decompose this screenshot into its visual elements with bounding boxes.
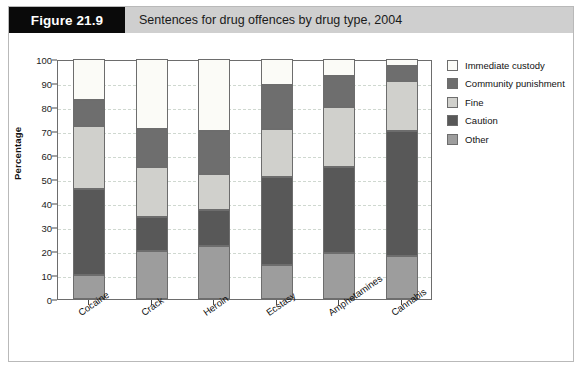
bar-amphetamines xyxy=(323,59,355,299)
bar-cocaine xyxy=(73,59,105,299)
plot-region xyxy=(57,60,432,300)
gridline xyxy=(58,229,431,230)
bar-segment xyxy=(323,107,355,167)
legend-swatch-icon xyxy=(447,60,458,71)
y-tick-label: 90 xyxy=(26,79,52,90)
bar-segment xyxy=(73,189,105,275)
bar-ecstasy xyxy=(261,59,293,299)
bar-cannabis xyxy=(386,59,418,299)
bar-segment xyxy=(323,167,355,253)
bar-segment xyxy=(261,59,293,85)
legend: Immediate custodyCommunity punishmentFin… xyxy=(447,57,572,150)
y-tick-label: 30 xyxy=(26,223,52,234)
bar-heroin xyxy=(198,59,230,299)
legend-item: Caution xyxy=(447,113,572,129)
legend-item: Other xyxy=(447,131,572,147)
bar-segment xyxy=(198,131,230,174)
bar-segment xyxy=(136,59,168,129)
y-tick-label: 10 xyxy=(26,271,52,282)
gridline xyxy=(58,181,431,182)
bar-segment xyxy=(198,246,230,299)
y-tick-label: 80 xyxy=(26,103,52,114)
bar-segment xyxy=(136,129,168,167)
legend-swatch-icon xyxy=(447,115,458,126)
bar-segment xyxy=(386,131,418,256)
y-tick-label: 50 xyxy=(26,175,52,186)
bar-segment xyxy=(136,251,168,299)
legend-swatch-icon xyxy=(447,78,458,89)
bar-segment xyxy=(198,174,230,210)
bar-segment xyxy=(261,129,293,177)
bar-segment xyxy=(386,81,418,131)
gridline xyxy=(58,253,431,254)
y-tick-label: 40 xyxy=(26,199,52,210)
bar-segment xyxy=(73,126,105,188)
legend-label: Immediate custody xyxy=(465,60,545,71)
chart-area: Percentage 0102030405060708090100 Cocain… xyxy=(9,33,573,361)
y-axis-title: Percentage xyxy=(12,127,23,180)
legend-item: Immediate custody xyxy=(447,57,572,73)
bar-segment xyxy=(136,167,168,217)
figure-number-tag: Figure 21.9 xyxy=(9,7,125,33)
legend-label: Fine xyxy=(465,97,483,108)
bar-segment xyxy=(136,217,168,251)
legend-label: Caution xyxy=(465,115,498,126)
y-tick-label: 0 xyxy=(26,295,52,306)
bar-segment xyxy=(198,59,230,131)
legend-label: Community punishment xyxy=(465,78,565,89)
bar-segment xyxy=(261,177,293,266)
bar-segment xyxy=(73,100,105,126)
gridline xyxy=(58,85,431,86)
y-tick-label: 20 xyxy=(26,247,52,258)
bar-segment xyxy=(386,59,418,66)
y-tick-label: 100 xyxy=(26,55,52,66)
bar-segment xyxy=(323,59,355,76)
y-tick-label: 60 xyxy=(26,151,52,162)
figure-title: Sentences for drug offences by drug type… xyxy=(139,7,402,33)
legend-swatch-icon xyxy=(447,97,458,108)
bar-segment xyxy=(386,66,418,80)
legend-swatch-icon xyxy=(447,134,458,145)
bar-segment xyxy=(261,85,293,128)
bar-crack xyxy=(136,59,168,299)
bar-segment xyxy=(198,210,230,246)
gridline xyxy=(58,205,431,206)
gridline xyxy=(58,109,431,110)
gridline xyxy=(58,157,431,158)
figure-container: Figure 21.9 Sentences for drug offences … xyxy=(0,0,583,374)
legend-item: Fine xyxy=(447,94,572,110)
y-tick-label: 70 xyxy=(26,127,52,138)
legend-label: Other xyxy=(465,134,489,145)
gridline xyxy=(58,133,431,134)
bar-segment xyxy=(323,76,355,107)
legend-item: Community punishment xyxy=(447,76,572,92)
figure-header-bar: Figure 21.9 Sentences for drug offences … xyxy=(9,7,573,33)
bar-segment xyxy=(73,59,105,100)
